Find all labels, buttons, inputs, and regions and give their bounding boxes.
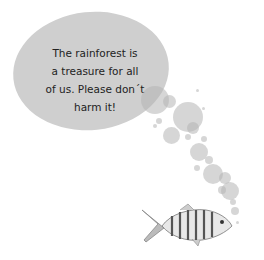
air-bubble	[194, 165, 200, 171]
air-bubble	[218, 186, 226, 194]
air-bubble	[163, 95, 176, 108]
air-bubble	[153, 124, 157, 128]
air-bubble	[185, 134, 191, 140]
air-bubble	[196, 89, 199, 92]
air-bubble	[201, 136, 207, 142]
air-bubble	[187, 122, 199, 134]
fish-icon	[140, 200, 240, 250]
speech-line: The rainforest is	[28, 44, 162, 62]
air-bubble	[163, 127, 180, 144]
air-bubble	[205, 156, 213, 164]
speech-line: a treasure for all	[28, 62, 162, 80]
air-bubble	[202, 107, 205, 110]
air-bubble	[156, 118, 162, 124]
